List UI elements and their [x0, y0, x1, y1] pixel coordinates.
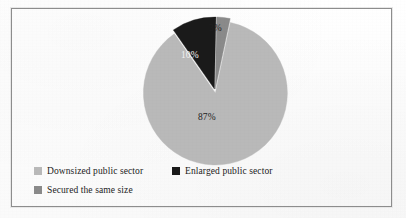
legend-swatch-icon [172, 167, 180, 175]
legend-item-enlarged-public-sector[interactable]: Enlarged public sector [172, 163, 273, 179]
chart-legend: Downsized public sector Enlarged public … [34, 163, 364, 198]
legend-item-label: Secured the same size [47, 185, 133, 196]
legend-row: Downsized public sector Enlarged public … [34, 163, 364, 179]
pie-value-label-enlarged: 10% [181, 50, 199, 60]
legend-item-label: Enlarged public sector [185, 166, 273, 177]
legend-swatch-icon [34, 186, 42, 194]
pie-value-label-secured: 3% [209, 23, 222, 33]
legend-item-secured-the-same-size[interactable]: Secured the same size [34, 182, 133, 198]
legend-row: Secured the same size [34, 182, 364, 198]
legend-swatch-icon [34, 167, 42, 175]
legend-item-label: Downsized public sector [47, 166, 143, 177]
pie-value-label-downsized: 87% [198, 112, 216, 122]
chart-figure: 87% 10% 3% Downsized public sector Enlar… [0, 0, 406, 218]
legend-item-downsized-public-sector[interactable]: Downsized public sector [34, 163, 143, 179]
